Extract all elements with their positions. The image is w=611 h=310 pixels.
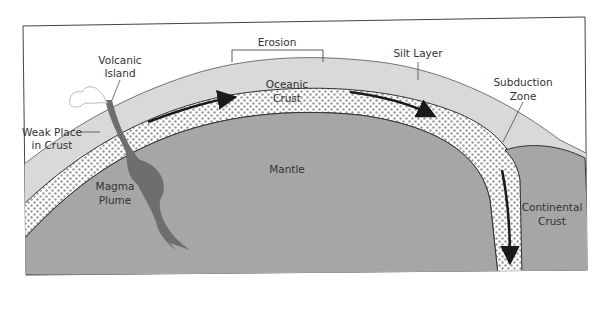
label-erosion: Erosion	[258, 36, 297, 48]
label-weak-place-line1: Weak Place	[22, 126, 82, 138]
label-continental-crust-line1: Continental	[522, 201, 583, 213]
label-oceanic-crust-line2: Crust	[273, 92, 301, 104]
label-volcanic-island-line1: Volcanic	[98, 54, 141, 66]
label-volcanic-island-line2: Island	[104, 67, 135, 79]
label-weak-place-line2: in Crust	[32, 139, 73, 151]
label-subduction-zone-line2: Zone	[510, 90, 537, 102]
label-oceanic-crust-line1: Oceanic	[266, 78, 309, 90]
label-magma-plume-line2: Plume	[99, 194, 132, 206]
plate-tectonics-diagram: Erosion Volcanic Island Silt Layer Ocean…	[0, 0, 611, 310]
label-subduction-zone-line1: Subduction	[493, 76, 552, 88]
label-continental-crust-line2: Crust	[538, 215, 566, 227]
label-mantle: Mantle	[269, 163, 305, 175]
label-magma-plume-line1: Magma	[96, 180, 135, 192]
label-silt-layer: Silt Layer	[393, 47, 443, 59]
